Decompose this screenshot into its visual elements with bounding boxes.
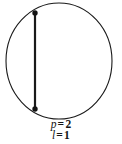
label-l-equals: = [55,129,64,141]
chord-endpoint-bottom-dot [32,106,37,111]
circle-outline [6,3,112,119]
chord-endpoint-top-dot [32,10,37,15]
label-l-value: 1 [64,129,70,141]
figure-container: p=2 l=1 [0,0,122,144]
label-l: l=1 [0,130,122,141]
parameter-labels: p=2 l=1 [0,119,122,141]
